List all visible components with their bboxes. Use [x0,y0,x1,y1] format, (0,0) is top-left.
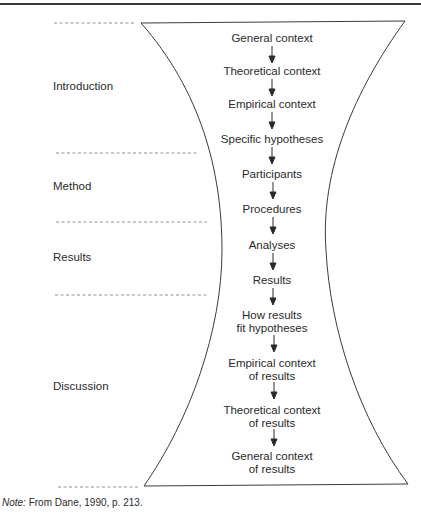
section-label-method: Method [53,180,91,192]
step-text-line1: How results [172,309,372,322]
step-text-line1: Empirical context [172,357,372,370]
arrow-down-icon [271,429,277,446]
step-text: Empirical context [228,98,316,110]
step-specific-hypotheses: Specific hypotheses [172,133,372,146]
step-participants: Participants [172,168,372,181]
step-text-line2: fit hypotheses [172,322,372,335]
arrow-down-icon [270,217,276,234]
step-analyses: Analyses [172,239,372,252]
step-text-line2: of results [172,417,372,430]
step-text: General context [231,32,312,44]
step-how-results-fit-hypotheses: How results fit hypotheses [172,309,372,335]
arrow-down-icon [270,253,276,270]
step-text: Results [253,274,291,286]
step-text: Participants [242,168,302,180]
source-note: Note: From Dane, 1990, p. 213. [2,497,143,508]
arrow-down-icon [269,112,275,129]
step-general-context-of-results: General context of results [172,450,372,476]
step-text: Theoretical context [223,65,320,77]
note-label: Note: [2,497,26,508]
section-label-results: Results [53,251,91,263]
step-text: Procedures [243,203,302,215]
arrow-down-icon [271,382,277,399]
step-procedures: Procedures [172,203,372,216]
arrow-down-icon [270,182,276,199]
step-results: Results [172,274,372,287]
arrow-down-icon [269,46,275,63]
arrow-down-icon [269,79,275,96]
arrow-down-icon [270,288,276,305]
step-text-line1: Theoretical context [172,404,372,417]
step-text-line2: of results [172,370,372,383]
arrow-down-icon [271,335,277,352]
step-empirical-context: Empirical context [172,98,372,111]
step-text: Specific hypotheses [221,133,323,145]
arrow-down-icon [269,147,275,164]
step-theoretical-context-of-results: Theoretical context of results [172,404,372,430]
step-text: Analyses [249,239,296,251]
step-empirical-context-of-results: Empirical context of results [172,357,372,383]
step-text-line1: General context [172,450,372,463]
note-text: From Dane, 1990, p. 213. [26,497,143,508]
step-general-context: General context [172,32,372,45]
step-theoretical-context: Theoretical context [172,65,372,78]
section-label-introduction: Introduction [53,80,113,92]
step-text-line2: of results [172,463,372,476]
section-label-discussion: Discussion [53,380,109,392]
